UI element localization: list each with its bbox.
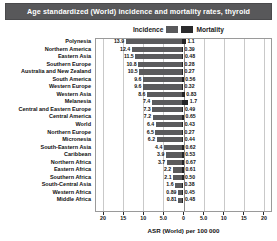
mortality-bar[interactable] xyxy=(182,183,184,188)
row-bars: 4.40.62 xyxy=(93,144,270,152)
axis-tick-label: 15 xyxy=(241,215,247,221)
mortality-bar[interactable] xyxy=(182,69,184,74)
mortality-value: 0.27 xyxy=(185,129,195,137)
incidence-value: 13.9 xyxy=(114,38,124,46)
incidence-bar[interactable] xyxy=(152,100,182,105)
chart-row: Australia and New Zealand10.50.27 xyxy=(0,68,277,76)
incidence-bar[interactable] xyxy=(139,69,181,74)
mortality-bar[interactable] xyxy=(182,160,185,165)
chart-row: South-Central Asia1.60.38 xyxy=(0,181,277,189)
category-label: Central America xyxy=(0,113,93,121)
incidence-bar[interactable] xyxy=(167,160,182,165)
legend-label-mortality: Mortality xyxy=(196,26,223,33)
mortality-bar[interactable] xyxy=(182,137,184,142)
x-axis: 2015105.005.0101520 xyxy=(95,212,272,224)
mortality-bar[interactable] xyxy=(182,84,184,89)
chart-row: Western Europe9.60.32 xyxy=(0,83,277,91)
mortality-value: 0.56 xyxy=(185,76,195,84)
axis-tick-label: 10 xyxy=(221,215,227,221)
chart-row: Western Africa0.890.45 xyxy=(0,189,277,197)
category-label: Northern Africa xyxy=(0,159,93,167)
chart-row: Southern Europe10.80.28 xyxy=(0,61,277,69)
incidence-bar[interactable] xyxy=(143,77,182,82)
category-label: Southern Africa xyxy=(0,174,93,182)
incidence-bar[interactable] xyxy=(157,137,182,142)
chart-row: South America9.60.56 xyxy=(0,76,277,84)
mortality-bar[interactable] xyxy=(182,47,184,52)
mortality-value: 0.62 xyxy=(185,144,195,152)
category-label: Northern Europe xyxy=(0,129,93,137)
incidence-bar[interactable] xyxy=(153,115,182,120)
incidence-bar[interactable] xyxy=(155,130,181,135)
incidence-bar[interactable] xyxy=(173,175,181,180)
axis-tick-label: 5.0 xyxy=(200,215,207,221)
incidence-bar[interactable] xyxy=(173,167,182,172)
incidence-value: 2.1 xyxy=(164,174,171,182)
category-label: Australia and New Zealand xyxy=(0,68,93,76)
incidence-value: 0.81 xyxy=(167,196,177,204)
incidence-bar[interactable] xyxy=(135,54,181,59)
incidence-bar[interactable] xyxy=(166,152,182,157)
row-bars: 7.41.7 xyxy=(93,98,270,106)
axis-tick-label: 20 xyxy=(261,215,267,221)
row-bars: 2.10.50 xyxy=(93,174,270,182)
row-bars: 2.20.61 xyxy=(93,166,270,174)
mortality-bar[interactable] xyxy=(182,152,184,157)
row-bars: 1.60.38 xyxy=(93,181,270,189)
mortality-bar[interactable] xyxy=(182,198,184,203)
mortality-bar[interactable] xyxy=(182,175,184,180)
chart-row: World6.40.43 xyxy=(0,121,277,129)
incidence-bar[interactable] xyxy=(152,107,181,112)
incidence-value: 3.9 xyxy=(157,151,164,159)
row-bars: 6.50.27 xyxy=(93,129,270,137)
legend-label-incidence: Incidence xyxy=(133,26,163,33)
mortality-bar[interactable] xyxy=(182,107,184,112)
mortality-value: 0.43 xyxy=(185,121,195,129)
legend-swatch-mortality xyxy=(181,26,193,33)
incidence-value: 12.4 xyxy=(120,46,130,54)
mortality-bar[interactable] xyxy=(182,54,184,59)
mortality-bar[interactable] xyxy=(182,77,184,82)
category-label: South-Central Asia xyxy=(0,181,93,189)
mortality-bar[interactable] xyxy=(182,190,184,195)
mortality-bar[interactable] xyxy=(182,39,186,44)
mortality-value: 0.38 xyxy=(185,181,195,189)
axis-tick-label: 10 xyxy=(140,215,146,221)
row-bars: 7.20.65 xyxy=(93,113,270,121)
incidence-value: 9.6 xyxy=(134,83,141,91)
incidence-bar[interactable] xyxy=(132,47,182,52)
mortality-value: 0.48 xyxy=(185,53,195,61)
mortality-bar[interactable] xyxy=(182,115,185,120)
mortality-value: 0.48 xyxy=(185,196,195,204)
mortality-bar[interactable] xyxy=(182,100,189,105)
incidence-value: 0.89 xyxy=(166,189,176,197)
mortality-value: 0.32 xyxy=(185,83,195,91)
mortality-bar[interactable] xyxy=(182,122,184,127)
incidence-bar[interactable] xyxy=(138,62,181,67)
incidence-value: 10.5 xyxy=(128,68,138,76)
chart-row: Melanesia7.41.7 xyxy=(0,98,277,106)
row-bars: 10.50.27 xyxy=(93,68,270,76)
chart-row: Central and Eastern Europe7.30.49 xyxy=(0,106,277,114)
category-label: Micronesia xyxy=(0,136,93,144)
chart-row: Micronesia6.20.44 xyxy=(0,136,277,144)
mortality-bar[interactable] xyxy=(182,167,184,172)
incidence-bar[interactable] xyxy=(126,39,182,44)
mortality-bar[interactable] xyxy=(182,130,184,135)
incidence-bar[interactable] xyxy=(143,84,182,89)
mortality-bar[interactable] xyxy=(182,62,184,67)
page-title: Age standardized (World) incidence and m… xyxy=(27,7,250,16)
incidence-value: 8.6 xyxy=(138,91,145,99)
category-label: South-Eastern Asia xyxy=(0,144,93,152)
incidence-bar[interactable] xyxy=(164,145,182,150)
incidence-value: 10.8 xyxy=(126,61,136,69)
mortality-bar[interactable] xyxy=(182,145,184,150)
incidence-value: 6.4 xyxy=(147,121,154,129)
bar-rows: Polynesia13.91.1Northern America12.40.39… xyxy=(0,38,277,204)
incidence-bar[interactable] xyxy=(156,122,182,127)
incidence-value: 2.2 xyxy=(164,166,171,174)
chart-row: Southern Africa2.10.50 xyxy=(0,174,277,182)
incidence-bar[interactable] xyxy=(147,92,182,97)
incidence-value: 9.6 xyxy=(134,76,141,84)
mortality-bar[interactable] xyxy=(182,92,185,97)
